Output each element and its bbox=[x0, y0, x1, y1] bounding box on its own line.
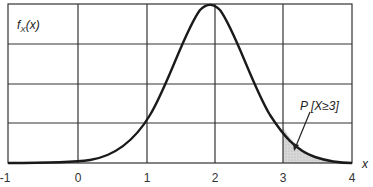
tick-label: 1 bbox=[144, 171, 151, 185]
annotation-label: P [X≥3] bbox=[300, 99, 339, 113]
chart: fX(x) P [X≥3] x -1 0 1 2 3 4 bbox=[0, 0, 373, 187]
tick-label: 0 bbox=[75, 171, 82, 185]
tick-label: 4 bbox=[349, 171, 356, 185]
grid bbox=[8, 4, 352, 163]
y-axis-label: fX(x) bbox=[17, 18, 40, 34]
annotation-arrow bbox=[296, 112, 310, 146]
tick-label: 3 bbox=[280, 171, 287, 185]
tick-label: 2 bbox=[212, 171, 219, 185]
x-axis-label: x bbox=[361, 157, 369, 171]
tick-label: -1 bbox=[0, 171, 11, 185]
x-ticks: -1 0 1 2 3 4 bbox=[0, 171, 356, 185]
